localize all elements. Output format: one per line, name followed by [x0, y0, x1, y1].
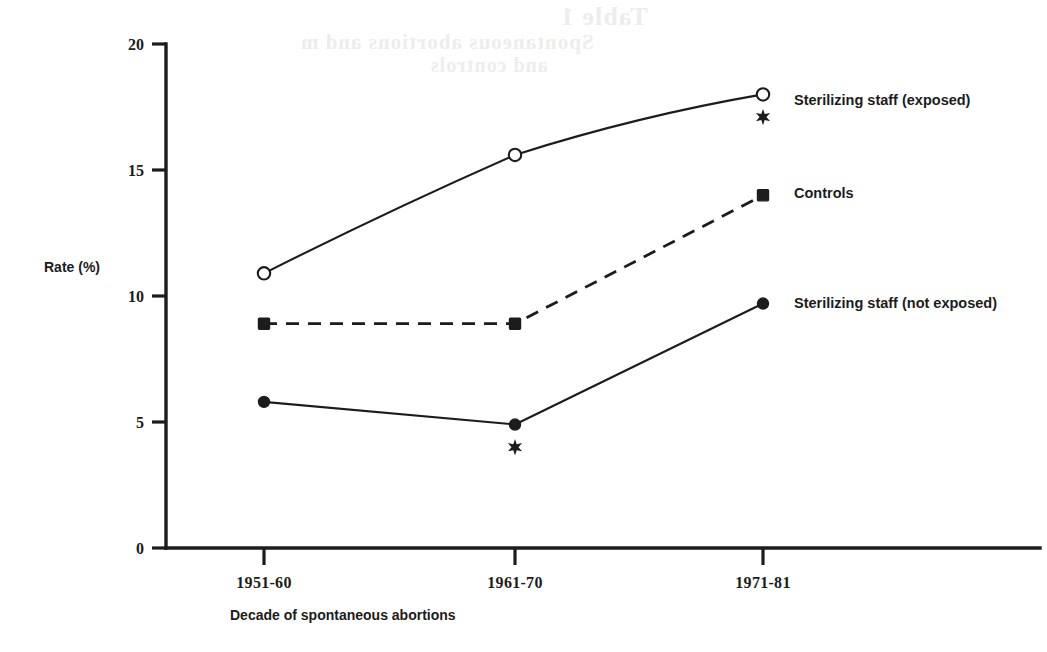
series-label: Controls — [794, 185, 854, 201]
data-point-filled-circle — [509, 419, 520, 430]
significance-star-icon — [508, 439, 522, 455]
series-legend-group: Sterilizing staff (exposed)ControlsSteri… — [794, 92, 997, 311]
significance-star-icon — [756, 109, 770, 125]
y-tick-label: 0 — [136, 540, 144, 557]
series-label: Sterilizing staff (exposed) — [794, 92, 971, 108]
y-tick-label: 10 — [128, 288, 144, 305]
x-axis-tick-labels: 1951-601961-701971-81 — [236, 574, 790, 591]
y-tick-label: 5 — [136, 414, 144, 431]
chart-figure: Table 1 Spontaneous abortions and m and … — [0, 0, 1047, 652]
data-point-filled-square — [509, 318, 520, 329]
x-axis-label: Decade of spontaneous abortions — [230, 607, 456, 623]
x-tick-label: 1951-60 — [236, 574, 291, 591]
line-chart-plot: 05101520 1951-601961-701971-81 Rate (%) … — [0, 0, 1047, 652]
data-point-filled-square — [258, 318, 269, 329]
y-axis-label: Rate (%) — [44, 259, 100, 275]
data-point-filled-circle — [757, 298, 768, 309]
series-line — [264, 94, 763, 273]
data-point-open-circle — [258, 267, 270, 279]
x-tick-label: 1971-81 — [735, 574, 790, 591]
series-line — [264, 195, 763, 324]
annotation-markers-group — [508, 109, 770, 456]
y-tick-label: 20 — [128, 36, 144, 53]
x-tick-label: 1961-70 — [487, 574, 542, 591]
data-point-open-circle — [757, 88, 769, 100]
data-point-filled-circle — [258, 396, 269, 407]
data-point-filled-square — [757, 190, 768, 201]
series-lines-group — [264, 94, 763, 424]
series-markers-group — [258, 88, 769, 430]
data-point-open-circle — [509, 149, 521, 161]
y-tick-label: 15 — [128, 162, 144, 179]
axis-group: 05101520 1951-601961-701971-81 — [128, 36, 1040, 591]
y-axis-tick-labels: 05101520 — [128, 36, 144, 557]
y-axis-ticks — [152, 44, 166, 548]
x-axis-ticks — [264, 548, 763, 565]
series-label: Sterilizing staff (not exposed) — [794, 295, 997, 311]
